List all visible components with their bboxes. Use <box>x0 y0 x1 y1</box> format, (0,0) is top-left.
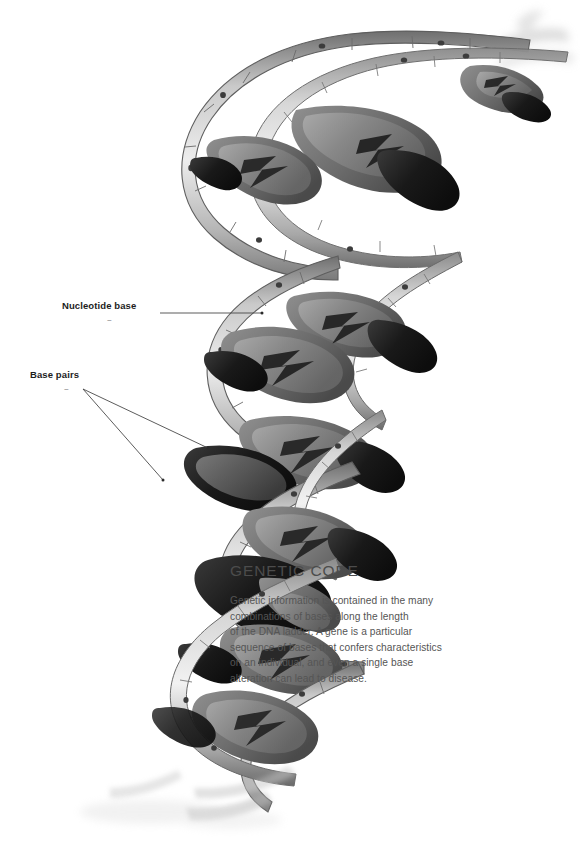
tilde-mark-nucleotide: ~ <box>107 317 112 325</box>
panel-body-line: alteration can lead to disease. <box>230 671 470 687</box>
base-pair-blades-loop1 <box>190 65 551 211</box>
panel-body: Genetic information is contained in the … <box>230 593 470 687</box>
figure-canvas: Nucleotide base ~ Base pairs ~ GENETIC C… <box>0 0 580 842</box>
panel-heading: GENETIC CODE <box>230 562 470 579</box>
panel-body-line: of the DNA ladder. A gene is a particula… <box>230 624 470 640</box>
dna-helix-illustration <box>0 0 580 842</box>
panel-body-line: combinations of bases along the length <box>230 609 470 625</box>
callout-label-nucleotide-base: Nucleotide base <box>62 300 136 311</box>
panel-body-line: on an individual, and even a single base <box>230 655 470 671</box>
panel-body-line: sequence of bases that confers character… <box>230 640 470 656</box>
dna-strand-group <box>80 11 574 829</box>
tilde-mark-base-pairs: ~ <box>64 386 69 394</box>
panel-body-line: Genetic information is contained in the … <box>230 593 470 609</box>
genetic-code-panel: GENETIC CODE Genetic information is cont… <box>230 562 470 687</box>
leader-line-basepairs-1 <box>83 389 208 448</box>
callout-label-base-pairs: Base pairs <box>30 369 79 380</box>
leader-line-basepairs-2 <box>83 389 163 480</box>
